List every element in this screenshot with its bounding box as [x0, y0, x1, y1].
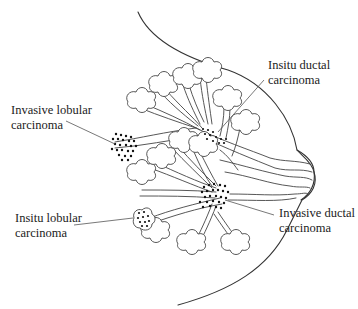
lower-lobule-branches — [127, 128, 250, 255]
label-insitu-ductal-carcinoma: Insitu ductal carcinoma — [268, 58, 330, 88]
breast-carcinoma-diagram: Invasive lobular carcinoma Insitu ductal… — [0, 0, 358, 309]
label-insitu-lobular-carcinoma: Insitu lobular carcinoma — [15, 211, 82, 241]
label-invasive-ductal-carcinoma: Invasive ductal carcinoma — [279, 206, 355, 236]
label-invasive-lobular-carcinoma: Invasive lobular carcinoma — [11, 103, 92, 133]
nipple-outline — [297, 150, 314, 200]
leader-insitu-lobular — [74, 218, 133, 225]
leader-invasive-ductal — [225, 200, 274, 215]
diagram-illustration — [0, 0, 358, 309]
